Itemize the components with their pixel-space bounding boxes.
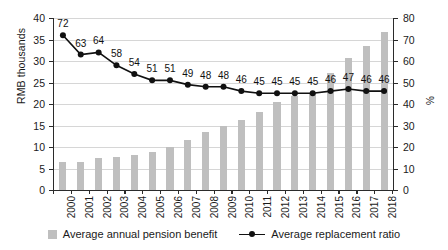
data-label: 45 [289, 76, 300, 87]
bar [273, 102, 280, 190]
gridline [54, 18, 393, 19]
y-axis-right-tick-label: 10 [403, 163, 415, 175]
y-axis-left-tick-label: 30 [33, 55, 45, 67]
legend-label-replacement-ratio: Average replacement ratio [271, 228, 400, 240]
line-marker [78, 52, 84, 58]
x-axis-tick [392, 190, 393, 194]
y-axis-right-tick [393, 61, 398, 62]
data-label: 45 [271, 76, 282, 87]
legend-item-pension-benefit[interactable]: Average annual pension benefit [48, 228, 218, 240]
data-label: 49 [182, 68, 193, 79]
gridline [54, 40, 393, 41]
x-axis-tick-label: 2001 [84, 196, 95, 218]
legend-item-replacement-ratio[interactable]: Average replacement ratio [239, 228, 400, 240]
data-label: 46 [379, 74, 390, 85]
y-axis-right-tick-label: 70 [403, 34, 415, 46]
plot-area: 0510152025303540 01020304050607080 72636… [53, 18, 394, 190]
data-label: 45 [307, 76, 318, 87]
legend-label-pension-benefit: Average annual pension benefit [63, 228, 218, 240]
y-axis-right-title: % [425, 89, 436, 113]
x-axis-tick-label: 2017 [369, 196, 380, 218]
x-axis-tick-label: 2012 [280, 196, 291, 218]
x-axis-tick-label: 2018 [387, 196, 398, 218]
bar [59, 162, 66, 190]
data-label: 72 [57, 18, 68, 29]
y-axis-left-tick-label: 40 [33, 12, 45, 24]
x-axis-tick [124, 190, 125, 194]
y-axis-right-tick [393, 18, 398, 19]
y-axis-left-tick-label: 25 [33, 77, 45, 89]
bar [77, 162, 84, 190]
x-axis-tick [231, 190, 232, 194]
x-axis-tick [196, 190, 197, 194]
x-axis-tick [303, 190, 304, 194]
line-marker [113, 62, 119, 68]
y-axis-right-tick [393, 147, 398, 148]
x-axis-tick [142, 190, 143, 194]
data-label: 46 [361, 74, 372, 85]
data-label: 48 [218, 70, 229, 81]
bar [291, 96, 298, 190]
y-axis-left-title: RMB thousands [15, 1, 27, 131]
y-axis-right-tick-label: 30 [403, 120, 415, 132]
bar [131, 155, 138, 190]
x-axis-tick-label: 2010 [244, 196, 255, 218]
x-axis-tick [214, 190, 215, 194]
y-axis-left-tick [49, 104, 54, 105]
x-axis-tick [107, 190, 108, 194]
line-marker [203, 84, 209, 90]
x-axis-tick [71, 190, 72, 194]
x-axis-tick-label: 2013 [298, 196, 309, 218]
data-label: 45 [254, 76, 265, 87]
bar [309, 93, 316, 190]
x-axis-tick-label: 2007 [191, 196, 202, 218]
bar [113, 157, 120, 190]
y-axis-right-tick-label: 80 [403, 12, 415, 24]
y-axis-left-tick [49, 169, 54, 170]
x-axis-tick-label: 2016 [351, 196, 362, 218]
y-axis-left-tick [49, 40, 54, 41]
x-axis-tick [249, 190, 250, 194]
y-axis-right-tick [393, 169, 398, 170]
bar [149, 152, 156, 190]
y-axis-left-tick [49, 147, 54, 148]
bar [95, 158, 102, 190]
line-marker [221, 84, 227, 90]
line-marker [131, 71, 137, 77]
chart-container: RMB thousands % 0510152025303540 0102030… [0, 0, 448, 250]
x-axis-tick [89, 190, 90, 194]
data-label: 51 [147, 63, 158, 74]
x-axis-tick-label: 2008 [209, 196, 220, 218]
bar [363, 46, 370, 190]
bar [327, 73, 334, 190]
y-axis-left-tick [49, 83, 54, 84]
x-axis-tick-label: 2005 [155, 196, 166, 218]
line-marker [256, 90, 262, 96]
bar-swatch-icon [48, 230, 57, 239]
data-label: 48 [200, 70, 211, 81]
x-axis-tick [160, 190, 161, 194]
x-axis-tick-label: 2011 [262, 196, 273, 218]
x-axis-tick-label: 2002 [102, 196, 113, 218]
x-axis-tick [53, 190, 54, 194]
bar [256, 112, 263, 190]
data-label: 64 [93, 35, 104, 46]
data-label: 54 [129, 57, 140, 68]
x-axis-tick [338, 190, 339, 194]
data-label: 63 [75, 38, 86, 49]
x-axis-tick-label: 2014 [316, 196, 327, 218]
bar [238, 120, 245, 190]
x-axis-line [53, 190, 393, 191]
gridline [54, 104, 393, 105]
bar [381, 32, 388, 190]
bar [166, 147, 173, 190]
y-axis-right-tick [393, 190, 398, 191]
line-marker-icon [239, 230, 265, 239]
data-label: 47 [343, 72, 354, 83]
y-axis-right-tick-label: 60 [403, 55, 415, 67]
line-marker [238, 88, 244, 94]
y-axis-right-tick [393, 40, 398, 41]
y-axis-left-tick [49, 18, 54, 19]
y-axis-right-tick-label: 0 [403, 184, 409, 196]
x-axis-tick [178, 190, 179, 194]
